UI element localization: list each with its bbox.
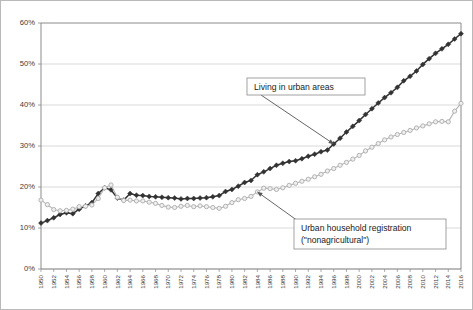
- data-point: [281, 186, 285, 190]
- x-tick-label: 2010: [419, 274, 426, 288]
- data-point: [58, 209, 62, 213]
- data-point: [64, 208, 68, 212]
- data-point: [319, 172, 323, 176]
- data-point: [185, 203, 189, 207]
- x-tick-label: 1956: [75, 274, 82, 288]
- data-point: [313, 175, 317, 179]
- data-point: [261, 169, 266, 174]
- y-tick-label: 10%: [20, 223, 35, 232]
- data-point: [459, 101, 463, 105]
- data-point: [179, 196, 184, 201]
- data-point: [204, 205, 208, 209]
- annotation-hukou: Urban household registration("nonagricul…: [257, 192, 446, 249]
- data-point: [153, 194, 158, 199]
- x-tick-label: 2012: [432, 274, 439, 288]
- annotation-leader-line: [257, 192, 298, 221]
- x-tick-label: 2008: [406, 274, 413, 288]
- annotation-leader-line: [261, 95, 334, 144]
- data-point: [51, 215, 56, 220]
- chart-figure: 0%10%20%30%40%50%60%19501952195419561958…: [0, 0, 473, 310]
- data-point: [306, 177, 310, 181]
- data-point: [204, 195, 209, 200]
- y-tick-label: 60%: [20, 18, 35, 27]
- data-point: [440, 119, 444, 123]
- y-tick-label: 30%: [20, 141, 35, 150]
- data-point: [351, 157, 355, 161]
- x-tick-label: 2016: [457, 274, 464, 288]
- data-point: [134, 199, 138, 203]
- series-hukou: [39, 101, 463, 213]
- data-point: [172, 196, 177, 201]
- data-point: [312, 152, 317, 157]
- data-point: [344, 160, 348, 164]
- data-point: [147, 200, 151, 204]
- x-tick-label: 1988: [279, 274, 286, 288]
- annotation-label-line1: Urban household registration: [301, 223, 412, 233]
- data-point: [103, 186, 107, 190]
- data-point: [421, 124, 425, 128]
- data-point: [134, 193, 139, 198]
- x-tick-label: 1986: [266, 274, 273, 288]
- data-point: [325, 169, 329, 173]
- x-tick-label: 1990: [292, 274, 299, 288]
- data-point: [83, 204, 87, 208]
- data-point: [332, 166, 336, 170]
- x-tick-label: 1996: [330, 274, 337, 288]
- data-point: [153, 201, 157, 205]
- data-point: [173, 205, 177, 209]
- annotation-label: Living in urban areas: [254, 82, 334, 92]
- data-point: [453, 109, 457, 113]
- data-point: [268, 166, 273, 171]
- data-point: [39, 221, 44, 226]
- line-chart: 0%10%20%30%40%50%60%19501952195419561958…: [1, 1, 473, 310]
- x-tick-label: 2014: [444, 274, 451, 288]
- data-point: [370, 145, 374, 149]
- x-tick-label: 1960: [101, 274, 108, 288]
- data-point: [230, 200, 234, 204]
- x-tick-label: 1950: [37, 274, 44, 288]
- data-point: [357, 153, 361, 157]
- data-point: [395, 132, 399, 136]
- data-point: [223, 204, 227, 208]
- data-point: [306, 154, 311, 159]
- x-tick-label: 2002: [368, 274, 375, 288]
- data-point: [299, 156, 304, 161]
- data-point: [293, 181, 297, 185]
- data-point: [210, 194, 215, 199]
- data-point: [166, 195, 171, 200]
- x-tick-label: 1972: [177, 274, 184, 288]
- data-point: [77, 205, 81, 209]
- data-point: [274, 187, 278, 191]
- x-tick-label: 1976: [203, 274, 210, 288]
- data-point: [211, 205, 215, 209]
- x-tick-label: 1994: [317, 274, 324, 288]
- data-point: [268, 187, 272, 191]
- data-point: [147, 194, 152, 199]
- y-tick-label: 20%: [20, 182, 35, 191]
- x-tick-label: 1982: [241, 274, 248, 288]
- data-point: [383, 138, 387, 142]
- x-tick-label: 1964: [126, 274, 133, 288]
- x-tick-label: 1952: [50, 274, 57, 288]
- data-point: [166, 205, 170, 209]
- data-point: [191, 196, 196, 201]
- x-tick-label: 2004: [381, 274, 388, 288]
- data-point: [287, 159, 292, 164]
- data-point: [338, 163, 342, 167]
- data-point: [122, 198, 126, 202]
- data-point: [71, 207, 75, 211]
- x-tick-label: 1998: [343, 274, 350, 288]
- data-point: [192, 205, 196, 209]
- x-tick-label: 1968: [152, 274, 159, 288]
- y-tick-label: 40%: [20, 100, 35, 109]
- data-point: [160, 203, 164, 207]
- data-point: [90, 203, 94, 207]
- data-point: [433, 120, 437, 124]
- data-point: [280, 161, 285, 166]
- data-point: [446, 120, 450, 124]
- data-point: [140, 193, 145, 198]
- data-point: [274, 163, 279, 168]
- data-point: [159, 195, 164, 200]
- data-point: [300, 179, 304, 183]
- data-point: [39, 198, 43, 202]
